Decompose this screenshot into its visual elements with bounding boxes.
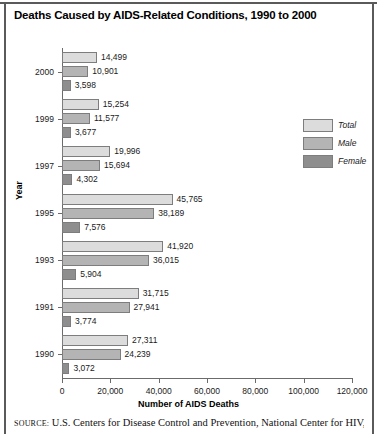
y-axis-tick-label: 1999 — [14, 114, 54, 124]
legend-label-total: Total — [338, 120, 356, 130]
bar-group: 41,92036,0155,904 — [62, 241, 352, 280]
bar-female[interactable] — [62, 80, 71, 91]
x-axis-tick — [159, 379, 160, 383]
y-axis-tick — [58, 213, 62, 214]
y-axis-tick — [58, 307, 62, 308]
bar-male[interactable] — [62, 302, 130, 313]
bar-male[interactable] — [62, 349, 121, 360]
bar-value-label: 10,901 — [92, 66, 118, 77]
bar-group: 31,71527,9413,774 — [62, 288, 352, 327]
x-axis-tick-label: 20,000 — [97, 386, 123, 396]
figure-container: Deaths Caused by AIDS-Related Conditions… — [0, 0, 377, 434]
bar-value-label: 27,941 — [134, 302, 160, 313]
y-axis-tick-label: 1995 — [14, 208, 54, 218]
legend-swatch-male — [303, 137, 333, 150]
bar-male[interactable] — [62, 113, 90, 124]
x-axis-tick-label: 0 — [60, 386, 65, 396]
legend-item-total[interactable]: Total — [297, 118, 371, 136]
bar-value-label: 41,920 — [167, 241, 193, 252]
bar-value-label: 27,311 — [132, 335, 157, 346]
x-axis-tick-label: 60,000 — [194, 386, 220, 396]
bar-female[interactable] — [62, 316, 71, 327]
legend-swatch-female — [303, 155, 333, 168]
bar-value-label: 5,904 — [80, 269, 101, 280]
bar-value-label: 3,677 — [75, 127, 96, 138]
x-axis-tick-label: 40,000 — [146, 386, 172, 396]
chart-title: Deaths Caused by AIDS-Related Conditions… — [14, 9, 317, 21]
bar-value-label: 36,015 — [153, 255, 179, 266]
legend-item-male[interactable]: Male — [297, 136, 371, 154]
y-axis-tick-label: 1993 — [14, 255, 54, 265]
bar-female[interactable] — [62, 127, 71, 138]
bar-group: 45,76538,1897,576 — [62, 194, 352, 233]
bar-female[interactable] — [62, 222, 80, 233]
bar-value-label: 4,302 — [76, 174, 97, 185]
bar-female[interactable] — [62, 174, 72, 185]
source-label: SOURCE: — [14, 419, 49, 428]
frame-border-right — [372, 2, 374, 434]
bar-value-label: 3,774 — [75, 316, 96, 327]
y-axis-tick-label: 1997 — [14, 161, 54, 171]
x-axis-tick-label: 120,000 — [337, 386, 368, 396]
bar-female[interactable] — [62, 363, 69, 374]
bar-total[interactable] — [62, 52, 97, 63]
bar-value-label: 15,694 — [104, 160, 130, 171]
bar-male[interactable] — [62, 255, 149, 266]
y-axis-tick-label: 1991 — [14, 302, 54, 312]
y-axis-tick — [58, 72, 62, 73]
bar-total[interactable] — [62, 99, 99, 110]
bar-value-label: 3,072 — [73, 363, 94, 374]
bar-value-label: 19,996 — [114, 146, 140, 157]
bar-total[interactable] — [62, 194, 173, 205]
bar-total[interactable] — [62, 288, 139, 299]
legend-label-female: Female — [338, 156, 366, 166]
x-axis-tick-label: 80,000 — [242, 386, 268, 396]
y-axis-tick — [58, 354, 62, 355]
bar-value-label: 3,598 — [75, 80, 96, 91]
bar-group: 27,31124,2393,072 — [62, 335, 352, 374]
y-axis-tick — [58, 260, 62, 261]
y-axis-tick — [58, 166, 62, 167]
y-axis-tick — [58, 119, 62, 120]
plot-area: 14,49910,9013,59815,25411,5773,67719,996… — [62, 48, 352, 378]
x-axis-tick-label: 100,000 — [288, 386, 319, 396]
bar-value-label: 24,239 — [125, 349, 151, 360]
legend-swatch-total — [303, 119, 333, 132]
bar-total[interactable] — [62, 241, 163, 252]
chart-legend: TotalMaleFemale — [297, 118, 371, 172]
x-axis-tick — [110, 379, 111, 383]
bar-value-label: 38,189 — [158, 208, 184, 219]
bar-total[interactable] — [62, 335, 128, 346]
bar-value-label: 31,715 — [143, 288, 169, 299]
source-text: U.S. Centers for Disease Control and Pre… — [52, 417, 364, 428]
x-axis-tick — [304, 379, 305, 383]
bar-value-label: 11,577 — [94, 113, 119, 124]
legend-label-male: Male — [338, 138, 356, 148]
frame-border-top — [0, 2, 377, 4]
bar-group: 14,49910,9013,598 — [62, 52, 352, 91]
y-axis-tick-label: 2000 — [14, 67, 54, 77]
bar-value-label: 15,254 — [103, 99, 129, 110]
legend-item-female[interactable]: Female — [297, 154, 371, 172]
bar-value-label: 7,576 — [84, 222, 105, 233]
source-note: SOURCE: U.S. Centers for Disease Control… — [14, 417, 364, 428]
x-axis-tick — [352, 379, 353, 383]
bar-male[interactable] — [62, 160, 100, 171]
bar-total[interactable] — [62, 146, 110, 157]
x-axis-title: Number of AIDS Deaths — [0, 399, 377, 409]
bar-male[interactable] — [62, 66, 88, 77]
y-axis-title: Year — [14, 181, 24, 200]
bar-male[interactable] — [62, 208, 154, 219]
bar-female[interactable] — [62, 269, 76, 280]
bar-value-label: 14,499 — [101, 52, 127, 63]
y-axis-tick-label: 1990 — [14, 349, 54, 359]
bar-value-label: 45,765 — [177, 194, 203, 205]
x-axis-tick — [62, 379, 63, 383]
frame-border-left — [4, 2, 6, 434]
x-axis-tick — [255, 379, 256, 383]
x-axis-tick — [207, 379, 208, 383]
